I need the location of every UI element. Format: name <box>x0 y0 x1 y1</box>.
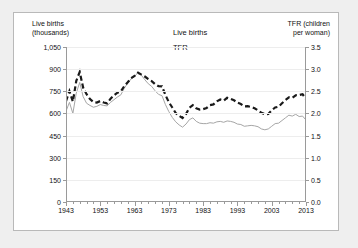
x-axis-minor-tick <box>162 202 163 204</box>
x-axis-major-tick <box>203 202 204 206</box>
x-axis-tick-label: 1953 <box>92 207 108 214</box>
x-axis-tick-label: 1973 <box>161 207 177 214</box>
x-axis-minor-tick <box>279 202 280 204</box>
x-axis-tick-label: 1963 <box>127 207 143 214</box>
y-axis-right-tick <box>306 136 309 137</box>
x-axis-minor-tick <box>73 202 74 204</box>
y-axis-left-tick-label: 750 <box>49 88 61 95</box>
chart-container: Live births (thousands) TFR (children pe… <box>13 12 339 231</box>
y-axis-left-tick-label: 900 <box>49 66 61 73</box>
y-axis-right-tick <box>306 91 309 92</box>
x-axis-major-tick <box>237 202 238 206</box>
x-axis-major-tick <box>100 202 101 206</box>
x-axis-line <box>66 201 306 202</box>
x-axis-major-tick <box>135 202 136 206</box>
y-axis-left-tick <box>63 69 66 70</box>
y-axis-left-tick-label: 600 <box>49 110 61 117</box>
y-axis-right-tick <box>306 69 309 70</box>
x-axis-major-tick <box>66 202 67 206</box>
y-axis-right-tick-label: 3.5 <box>311 44 321 51</box>
x-axis-minor-tick <box>176 202 177 204</box>
y-axis-left-tick-label: 150 <box>49 176 61 183</box>
y-axis-left-tick <box>63 91 66 92</box>
y-axis-right-tick-label: 1.0 <box>311 154 321 161</box>
x-axis-minor-tick <box>285 202 286 204</box>
series-lines <box>66 47 306 202</box>
x-axis-tick-label: 2003 <box>264 207 280 214</box>
y-axis-right-tick <box>306 113 309 114</box>
x-axis-minor-tick <box>128 202 129 204</box>
x-axis-minor-tick <box>121 202 122 204</box>
x-axis-minor-tick <box>217 202 218 204</box>
dashed-line-key <box>134 32 168 33</box>
y-axis-right-tick <box>306 158 309 159</box>
tfr-line <box>66 72 306 130</box>
y-axis-left-tick-label: 0 <box>57 199 61 206</box>
gridline <box>66 47 306 48</box>
x-axis-major-tick <box>306 202 307 206</box>
x-axis-minor-tick <box>251 202 252 204</box>
x-axis-tick-label: 2013 <box>298 207 314 214</box>
x-axis-major-tick <box>272 202 273 206</box>
gridline <box>66 158 306 159</box>
y-axis-right-tick-label: 1.5 <box>311 132 321 139</box>
live-births-line <box>66 72 306 118</box>
x-axis-minor-tick <box>183 202 184 204</box>
left-axis-title: Live births (thousands) <box>32 20 69 37</box>
gridline <box>66 113 306 114</box>
legend-item-live-births: Live births <box>134 25 207 40</box>
gridline <box>66 136 306 137</box>
x-axis-minor-tick <box>299 202 300 204</box>
plot-area: 01503004506007509001,050 0.00.51.01.52.0… <box>66 47 306 202</box>
x-axis-minor-tick <box>210 202 211 204</box>
gridline <box>66 69 306 70</box>
x-axis-minor-tick <box>196 202 197 204</box>
x-axis-minor-tick <box>80 202 81 204</box>
x-axis-minor-tick <box>155 202 156 204</box>
y-axis-left-line <box>66 47 67 202</box>
x-axis-minor-tick <box>292 202 293 204</box>
x-axis-minor-tick <box>148 202 149 204</box>
y-axis-right-tick-label: 0.5 <box>311 176 321 183</box>
x-axis-tick-label: 1983 <box>195 207 211 214</box>
y-axis-right-tick-label: 2.5 <box>311 88 321 95</box>
y-axis-left-tick <box>63 47 66 48</box>
x-axis-minor-tick <box>87 202 88 204</box>
y-axis-left-tick-label: 1,050 <box>43 44 61 51</box>
y-axis-left-tick <box>63 113 66 114</box>
x-axis-tick-label: 1993 <box>230 207 246 214</box>
y-axis-left-tick-label: 300 <box>49 154 61 161</box>
right-axis-title: TFR (children per woman) <box>288 20 330 37</box>
y-axis-right-tick-label: 2.0 <box>311 110 321 117</box>
x-axis-minor-tick <box>114 202 115 204</box>
x-axis-minor-tick <box>224 202 225 204</box>
x-axis-minor-tick <box>231 202 232 204</box>
y-axis-left-tick <box>63 158 66 159</box>
x-axis-minor-tick <box>189 202 190 204</box>
x-axis-minor-tick <box>107 202 108 204</box>
x-axis-minor-tick <box>141 202 142 204</box>
y-axis-left-tick <box>63 136 66 137</box>
gridline <box>66 180 306 181</box>
y-axis-right-tick-label: 3.0 <box>311 66 321 73</box>
x-axis-minor-tick <box>265 202 266 204</box>
y-axis-right-tick-label: 0.0 <box>311 199 321 206</box>
x-axis-minor-tick <box>258 202 259 204</box>
y-axis-right-line <box>305 47 306 202</box>
legend-label-live-births: Live births <box>173 28 207 37</box>
y-axis-left-tick <box>63 180 66 181</box>
x-axis-major-tick <box>169 202 170 206</box>
y-axis-left-tick-label: 450 <box>49 132 61 139</box>
y-axis-right-tick <box>306 47 309 48</box>
x-axis-minor-tick <box>93 202 94 204</box>
x-axis-tick-label: 1943 <box>58 207 74 214</box>
x-axis-minor-tick <box>244 202 245 204</box>
gridline <box>66 91 306 92</box>
y-axis-right-tick <box>306 180 309 181</box>
